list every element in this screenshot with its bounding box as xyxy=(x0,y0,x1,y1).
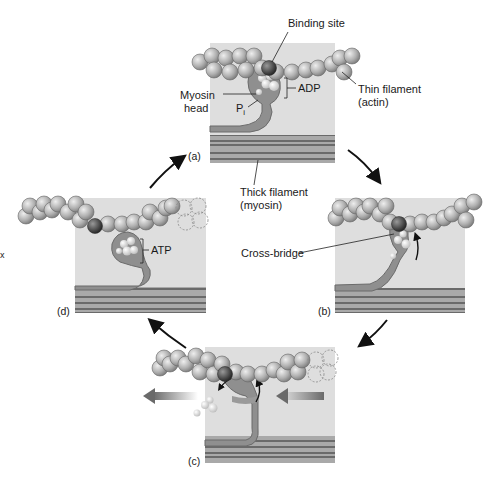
binding-site-bead-a xyxy=(262,61,277,76)
panel-label-a: (a) xyxy=(188,150,201,162)
panel-label-d: (d) xyxy=(57,305,70,317)
binding-site-bead-d xyxy=(88,219,103,234)
thick-filament-sublabel: (myosin) xyxy=(240,199,282,211)
thin-filament-sublabel: (actin) xyxy=(358,96,389,108)
pi-label: Pi xyxy=(236,102,245,119)
slide-arrowhead-left xyxy=(143,388,155,404)
thick-filament-a xyxy=(210,135,335,163)
atp-label: ATP xyxy=(151,244,172,256)
thin-filament-label: Thin filament xyxy=(358,83,421,95)
thick-filament-d xyxy=(75,287,206,313)
filament-movement-arrow xyxy=(282,392,324,400)
panel-d xyxy=(75,198,206,313)
myosin-head-label: Myosin xyxy=(180,89,215,101)
stray-mark: x xyxy=(0,249,5,261)
cycle-arrow-a-to-b xyxy=(348,150,378,180)
pi-subscript: i xyxy=(243,108,245,117)
thin-filament-slide-arrow xyxy=(153,392,198,400)
myosin-head-sublabel: head xyxy=(184,102,208,114)
binding-site-bead-c xyxy=(218,367,233,382)
thick-filament-label: Thick filament xyxy=(240,186,308,198)
cross-bridge-cycle-diagram xyxy=(0,0,501,477)
panel-label-c: (c) xyxy=(188,455,200,467)
panel-label-b: (b) xyxy=(318,305,331,317)
cycle-arrow-b-to-c xyxy=(362,320,387,344)
binding-site-label: Binding site xyxy=(288,17,345,29)
cross-bridge-label: Cross-bridge xyxy=(241,247,304,259)
thick-filament-leader xyxy=(254,160,258,185)
binding-site-bead-b xyxy=(392,217,407,232)
cycle-arrow-d-to-a xyxy=(150,158,182,188)
thick-filament-b xyxy=(335,288,465,313)
adp-label: ADP xyxy=(298,82,321,94)
cycle-arrow-c-to-d xyxy=(152,322,186,348)
